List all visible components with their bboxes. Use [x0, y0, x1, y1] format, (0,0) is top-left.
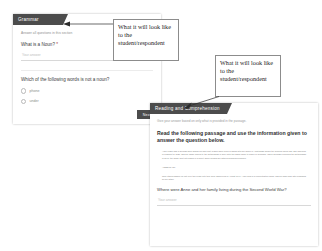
grammar-option-under-label: under [29, 99, 38, 103]
callout-note-2: What it will look like to the student/re… [215, 55, 281, 97]
radio-circle-icon[interactable] [21, 88, 26, 93]
grammar-option-phone-label: phone [29, 89, 39, 93]
reading-question-label: Where were Anne and her family living du… [157, 187, 311, 193]
reading-section-note: Give your answer based on only what is p… [157, 119, 311, 123]
grammar-option-phone[interactable]: phone [21, 88, 153, 93]
grammar-option-under[interactable]: under [21, 99, 153, 104]
grammar-divider [21, 70, 153, 71]
radio-circle-icon[interactable] [21, 99, 26, 104]
grammar-question-1-text: What is a Noun? [21, 42, 55, 47]
reading-passage-paragraph-2: They stayed hidden for just over two yea… [162, 175, 306, 181]
reading-panel-body: Give your answer based on only what is p… [150, 114, 318, 221]
reading-answer-input[interactable]: Your answer [157, 198, 311, 206]
reading-passage-paragraph-1: Anne Frank was a German-born Jewish girl… [162, 150, 306, 160]
required-asterisk: * [55, 42, 58, 47]
grammar-section-title: Grammar [13, 14, 63, 25]
reading-section-header: Reading and Comprehension [150, 103, 318, 114]
reading-passage-heading: ANNE FRANK [162, 166, 306, 169]
grammar-question-2-label: Which of the following words is not a no… [21, 77, 153, 83]
reading-section-title: Reading and Comprehension [150, 103, 227, 114]
callout-note-1: What it will look like to the student/re… [113, 19, 179, 61]
reading-form-panel: Reading and Comprehension Give your answ… [150, 103, 318, 246]
reading-instruction: Read the following passage and use the i… [157, 130, 311, 144]
